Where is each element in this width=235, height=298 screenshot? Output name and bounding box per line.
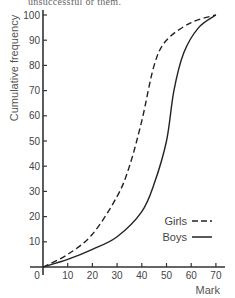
y-tick-label: 60 [29, 110, 41, 121]
x-tick-label: 60 [186, 270, 198, 281]
x-tick-label: 30 [112, 270, 124, 281]
boys-curve [43, 15, 216, 267]
y-tick-label: 80 [29, 60, 41, 71]
y-tick-label: 70 [29, 85, 41, 96]
y-tick-label: 100 [23, 10, 40, 21]
y-axis-label: Cumulative frequency [8, 14, 20, 121]
series-lines [43, 15, 216, 267]
girls-curve [43, 15, 216, 267]
legend-label-boys: Boys [163, 231, 188, 243]
y-tick-label: 10 [29, 236, 41, 247]
x-tick-label: 20 [87, 270, 99, 281]
y-tick-label: 90 [29, 35, 41, 46]
y-tick-label: 40 [29, 161, 41, 172]
x-tick-label: 0 [34, 270, 40, 281]
x-tick-label: 40 [136, 270, 148, 281]
x-tick-label: 10 [62, 270, 74, 281]
axes: 102030405060708090100010203040506070 [23, 10, 225, 282]
y-tick-label: 50 [29, 136, 41, 147]
y-tick-label: 30 [29, 186, 41, 197]
x-axis-label: Mark [196, 284, 221, 296]
x-tick-label: 50 [161, 270, 173, 281]
legend: GirlsBoys [163, 215, 212, 243]
x-tick-label: 70 [210, 270, 222, 281]
legend-label-girls: Girls [164, 215, 187, 227]
y-tick-label: 20 [29, 211, 41, 222]
cumulative-frequency-chart: 102030405060708090100010203040506070 Gir… [0, 0, 235, 298]
